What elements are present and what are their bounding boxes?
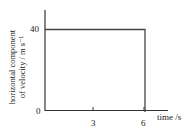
y-tick-40: 40 [30,25,39,34]
y-axis-label-line1: horizontal component [7,12,17,122]
y-axis-label: horizontal component of velocity / m s⁻¹ [7,12,27,122]
x-tick-3: 3 [91,119,96,128]
origin-label: 0 [36,107,41,116]
x-axis-label: time /s [157,113,181,122]
velocity-line [45,30,145,113]
y-axis-label-line2: of velocity / m s⁻¹ [17,12,27,122]
x-tick-6: 6 [141,119,146,128]
